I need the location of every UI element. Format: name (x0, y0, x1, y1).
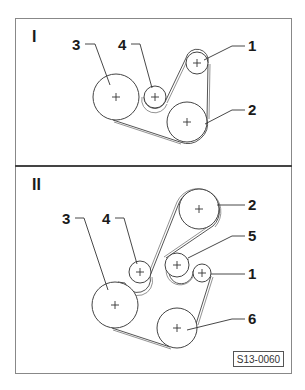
leader-5-ii (188, 236, 245, 258)
leader-4-i (131, 44, 152, 88)
callout-1-ii: 1 (248, 265, 256, 282)
callout-4-ii: 4 (102, 210, 111, 227)
section-ii: II (32, 176, 284, 367)
callout-4-i: 4 (118, 36, 127, 53)
leader-2-i (205, 110, 245, 124)
belt-routing-diagram: I 3 4 1 2 (0, 0, 305, 390)
callout-3-i: 3 (72, 36, 80, 53)
leader-3-ii (75, 218, 108, 290)
section-label-i: I (32, 28, 36, 45)
section-label-ii: II (32, 176, 41, 193)
leader-1-i (204, 46, 245, 60)
callout-2-ii: 2 (248, 196, 256, 213)
callout-6-ii: 6 (248, 310, 256, 327)
section-i: I 3 4 1 2 (32, 28, 256, 144)
diagram-svg: I 3 4 1 2 (0, 0, 305, 390)
callout-1-i: 1 (248, 37, 256, 54)
callout-2-i: 2 (248, 101, 256, 118)
callout-3-ii: 3 (62, 210, 70, 227)
callout-5-ii: 5 (248, 227, 256, 244)
figure-id: S13-0060 (237, 354, 281, 365)
leader-4-ii (115, 218, 137, 264)
